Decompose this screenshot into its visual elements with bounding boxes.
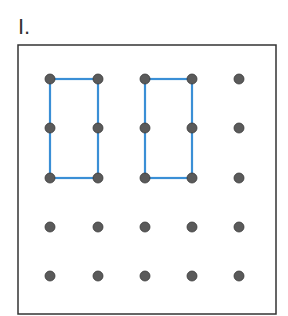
- peg-dot: [234, 123, 244, 133]
- peg-dot: [234, 222, 244, 232]
- peg-dot: [234, 271, 244, 281]
- peg-dot: [187, 271, 197, 281]
- peg-dot: [93, 271, 103, 281]
- peg-dot: [234, 173, 244, 183]
- peg-dot: [93, 222, 103, 232]
- peg-dot: [140, 173, 150, 183]
- peg-dot: [187, 173, 197, 183]
- peg-dot: [45, 222, 55, 232]
- peg-dot: [93, 123, 103, 133]
- peg-dot: [187, 74, 197, 84]
- peg-dot: [187, 123, 197, 133]
- geoboard: [0, 0, 288, 316]
- rectangle-1: [50, 79, 98, 178]
- peg-dot: [140, 74, 150, 84]
- peg-dot: [140, 222, 150, 232]
- peg-dot: [45, 74, 55, 84]
- peg-dot: [93, 173, 103, 183]
- peg-dot: [234, 74, 244, 84]
- peg-dot: [140, 271, 150, 281]
- peg-dot: [140, 123, 150, 133]
- rectangle-2: [145, 79, 192, 178]
- peg-dot: [45, 173, 55, 183]
- peg-dot: [187, 222, 197, 232]
- peg-dot: [93, 74, 103, 84]
- peg-dot: [45, 123, 55, 133]
- peg-dot: [45, 271, 55, 281]
